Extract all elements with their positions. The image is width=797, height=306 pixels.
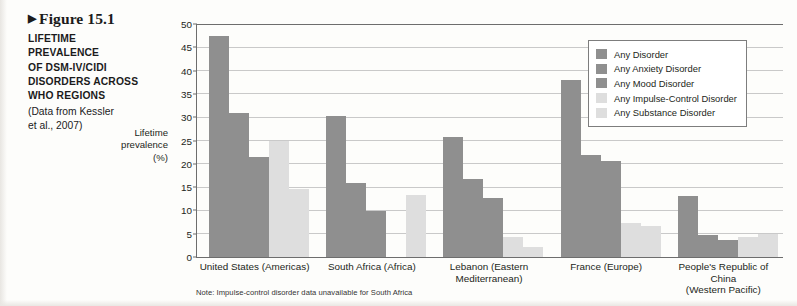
y-tick-label-20: 20 [181, 158, 192, 169]
bar-group [314, 24, 431, 257]
y-tick-label-40: 40 [181, 65, 192, 76]
legend-item: Any Mood Disorder [596, 76, 737, 91]
y-axis-title-line2: prevalence [96, 139, 168, 151]
bar [463, 179, 483, 257]
bar-group [197, 24, 314, 257]
bar [249, 157, 269, 257]
bar [366, 211, 386, 257]
figure-title: LIFETIMEPREVALENCEOF DSM-IV/CIDIDISORDER… [28, 32, 168, 104]
legend-swatch-icon [596, 49, 607, 59]
legend-swatch-icon [596, 108, 607, 118]
legend-label: Any Mood Disorder [614, 78, 694, 89]
y-axis-title: Lifetime prevalence (%) [96, 127, 168, 164]
y-tick-label-25: 25 [181, 135, 192, 146]
x-axis-label: France (Europe) [548, 261, 665, 296]
x-axis-label: Lebanon (EasternMediterranean) [430, 261, 547, 296]
legend-swatch-icon [596, 64, 607, 74]
y-tick-label-35: 35 [181, 88, 192, 99]
bar [269, 141, 289, 258]
bar [581, 155, 601, 257]
bar [738, 237, 758, 257]
y-tick-label-45: 45 [181, 42, 192, 53]
bar [346, 183, 366, 257]
legend-label: Any Anxiety Disorder [614, 63, 701, 74]
bar [621, 223, 641, 257]
bar-group [431, 24, 548, 257]
bar [523, 247, 543, 257]
figure-page: ▶Figure 15.1 LIFETIMEPREVALENCEOF DSM-IV… [0, 0, 797, 306]
y-tick-label-50: 50 [181, 19, 192, 30]
bar [443, 137, 463, 257]
bar [326, 116, 346, 257]
bar [561, 80, 581, 257]
y-tick-label-30: 30 [181, 112, 192, 123]
page-edge-shadow-bottom [0, 300, 797, 306]
y-tick-label-5: 5 [187, 228, 193, 239]
chart-legend: Any DisorderAny Anxiety DisorderAny Mood… [588, 40, 747, 127]
legend-item: Any Anxiety Disorder [596, 62, 737, 77]
legend-item: Any Impulse-Control Disorder [596, 91, 737, 106]
y-tick-label-10: 10 [181, 205, 192, 216]
bar [289, 189, 309, 257]
y-axis-title-line1: Lifetime [96, 127, 168, 139]
legend-item: Any Substance Disorder [596, 105, 737, 120]
bar [678, 196, 698, 258]
y-axis-title-line3: (%) [96, 152, 168, 164]
legend-swatch-icon [596, 93, 607, 103]
bar [758, 234, 778, 257]
bar [601, 161, 621, 257]
legend-label: Any Disorder [614, 49, 668, 60]
figure-caption: ▶Figure 15.1 LIFETIMEPREVALENCEOF DSM-IV… [28, 10, 168, 134]
figure-number: Figure 15.1 [39, 10, 115, 27]
legend-swatch-icon [596, 78, 607, 88]
bar [641, 226, 661, 257]
bar [229, 113, 249, 257]
x-axis-label: People's Republic of China(Western Pacif… [665, 261, 782, 296]
bar [209, 36, 229, 257]
triangle-marker-icon: ▶ [28, 12, 36, 24]
bar [698, 235, 718, 257]
figure-number-heading: ▶Figure 15.1 [28, 10, 168, 28]
bar [483, 198, 503, 257]
bar [406, 195, 426, 257]
y-tick-label-15: 15 [181, 182, 192, 193]
legend-label: Any Impulse-Control Disorder [614, 93, 737, 104]
page-edge-shadow-left [0, 0, 7, 306]
legend-label: Any Substance Disorder [614, 107, 715, 118]
chart-footnote: Note: Impulse-control disorder data unav… [196, 288, 412, 297]
legend-item: Any Disorder [596, 47, 737, 62]
bar [503, 237, 523, 258]
bar [718, 240, 738, 257]
y-tick-label-0: 0 [187, 252, 193, 263]
